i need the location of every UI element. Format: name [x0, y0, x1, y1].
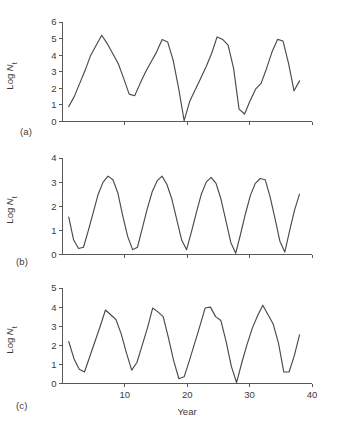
panel-b-ytick-marks	[59, 158, 63, 255]
panel-b-ytick-1: 1	[51, 225, 56, 236]
panel-a-series-line	[69, 35, 300, 120]
chart-panel-b: 01234 Log Nt	[0, 142, 360, 278]
panel-c-plot: 012345 10203040 Log Nt Year	[0, 278, 360, 425]
panel-a-ytick-4: 4	[51, 50, 56, 61]
panel-a-ytick-3: 3	[51, 66, 56, 77]
panel-c-xtick-10: 10	[120, 389, 131, 400]
panel-c-ytick-1: 1	[51, 359, 56, 370]
chart-panel-a: 0123456 Log Nt	[0, 4, 360, 142]
panel-b-ytick-3: 3	[51, 177, 56, 188]
panel-b-ytick-labels: 01234	[51, 152, 56, 260]
panel-a-ytick-marks	[59, 22, 63, 122]
panel-b-xtick-marks	[125, 255, 312, 259]
panel-a-ytick-0: 0	[51, 116, 56, 127]
panel-label-a: (a)	[20, 126, 32, 137]
panel-a-xtick-marks	[125, 122, 312, 126]
panel-a-ytick-1: 1	[51, 99, 56, 110]
panel-label-b: (b)	[16, 256, 28, 267]
panel-b-ytick-4: 4	[51, 152, 56, 163]
panel-a-ytick-5: 5	[51, 33, 56, 44]
panel-b-plot: 01234 Log Nt	[0, 142, 360, 278]
panel-c-xtick-40: 40	[307, 389, 318, 400]
panel-b-ytick-0: 0	[51, 249, 56, 260]
figure-population-cycles: 0123456 Log Nt 01234 Log Nt	[0, 0, 360, 425]
panel-c-xlabel: Year	[177, 406, 196, 417]
panel-b-ylabel: Log Nt	[4, 196, 18, 223]
panel-b-series-line	[69, 176, 300, 253]
panel-c-ytick-5: 5	[51, 282, 56, 293]
panel-c-xtick-30: 30	[244, 389, 255, 400]
panel-c-series-line	[69, 305, 300, 382]
panel-c-xtick-marks	[125, 384, 312, 388]
panel-a-ytick-6: 6	[51, 16, 56, 27]
chart-panel-c: 012345 10203040 Log Nt Year	[0, 278, 360, 425]
panel-c-ytick-4: 4	[51, 302, 56, 313]
panel-c-ytick-3: 3	[51, 321, 56, 332]
panel-a-plot: 0123456 Log Nt	[0, 4, 360, 142]
panel-c-ytick-marks	[59, 288, 63, 384]
panel-a-ytick-2: 2	[51, 83, 56, 94]
panel-c-xtick-labels: 10203040	[120, 389, 318, 400]
panel-label-c: (c)	[16, 400, 28, 411]
panel-a-ylabel: Log Nt	[4, 62, 18, 89]
panel-c-xtick-20: 20	[182, 389, 193, 400]
panel-b-ytick-2: 2	[51, 201, 56, 212]
panel-c-ytick-0: 0	[51, 378, 56, 389]
panel-c-ytick-labels: 012345	[51, 282, 56, 389]
panel-c-ytick-2: 2	[51, 340, 56, 351]
panel-a-ytick-labels: 0123456	[51, 16, 56, 127]
panel-c-ylabel: Log Nt	[4, 326, 18, 353]
